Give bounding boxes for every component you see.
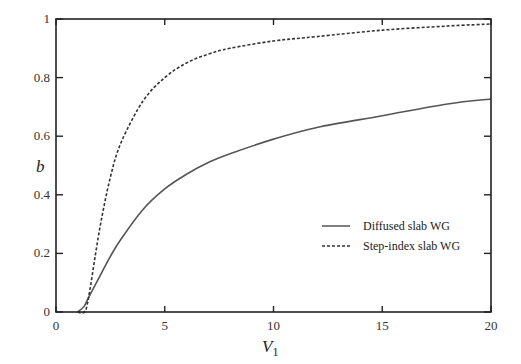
diffused-curve bbox=[78, 99, 491, 312]
chart: 0510152000.20.40.60.81 b V1 Diffused sla… bbox=[0, 0, 521, 364]
x-tick-label: 15 bbox=[376, 318, 389, 333]
y-tick-label: 0.4 bbox=[34, 187, 51, 202]
x-tick-label: 0 bbox=[53, 318, 60, 333]
legend-label-step-index: Step-index slab WG bbox=[363, 239, 460, 253]
step-index-curve bbox=[78, 24, 491, 313]
y-tick-label: 1 bbox=[44, 11, 51, 26]
legend-label-diffused: Diffused slab WG bbox=[363, 219, 450, 233]
x-tick-label: 20 bbox=[485, 318, 498, 333]
y-tick-label: 0.6 bbox=[34, 128, 51, 143]
x-tick-label: 5 bbox=[162, 318, 169, 333]
y-axis-label: b bbox=[36, 157, 45, 176]
y-tick-label: 0 bbox=[44, 304, 51, 319]
legend: Diffused slab WG Step-index slab WG bbox=[322, 219, 460, 253]
plot-curves bbox=[78, 24, 491, 313]
x-tick-label: 10 bbox=[267, 318, 280, 333]
plot-frame bbox=[56, 19, 491, 312]
y-tick-label: 0.8 bbox=[34, 70, 50, 85]
y-tick-label: 0.2 bbox=[34, 245, 50, 260]
axis-ticks: 0510152000.20.40.60.81 bbox=[34, 11, 498, 333]
x-axis-label: V1 bbox=[262, 337, 278, 359]
